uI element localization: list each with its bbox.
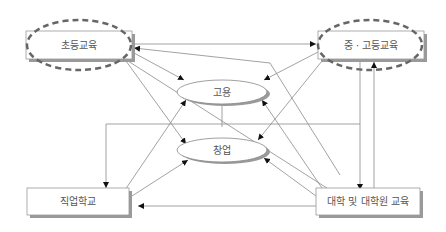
edge-vocational-startup	[132, 160, 188, 196]
edge-secondary-startup	[258, 61, 322, 140]
connectors	[106, 44, 374, 206]
node-label-elementary: 초등교육	[61, 40, 97, 51]
edge-university-employment	[262, 100, 322, 188]
node-vocational: 직업학교	[27, 188, 132, 218]
node-elementary: 초등교육	[26, 20, 135, 70]
edge-elementary-startup	[126, 61, 186, 144]
edge-university-startup	[264, 158, 316, 196]
node-secondary: 중 · 고등교육	[318, 20, 427, 70]
node-employment: 고용	[177, 80, 270, 106]
node-label-startup: 창업	[213, 144, 231, 156]
education-employment-diagram: 초등교육 중 · 고등교육 고용 창업 직업학교 대학 및 대학원 교육	[0, 0, 446, 232]
edge-elementary-employment	[134, 53, 184, 80]
node-label-secondary: 중 · 고등교육	[344, 40, 399, 51]
node-label-university: 대학 및 대학원 교육	[327, 196, 409, 207]
node-startup: 창업	[177, 138, 270, 164]
edge-vocational-employment	[125, 100, 186, 190]
node-label-employment: 고용	[213, 87, 231, 98]
node-label-vocational: 직업학교	[60, 195, 96, 207]
node-university: 대학 및 대학원 교육	[316, 188, 423, 218]
